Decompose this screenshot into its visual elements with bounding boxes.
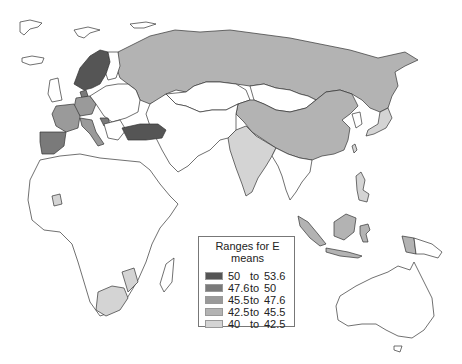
- borneo: [334, 214, 356, 240]
- legend-swatch: [205, 272, 223, 280]
- legend-title: Ranges for E means: [205, 240, 290, 264]
- legend-high: 42.5: [264, 318, 285, 330]
- japan: [366, 108, 392, 136]
- legend-item: 42.5 to 45.5: [205, 306, 290, 318]
- south-africa: [96, 286, 128, 316]
- legend-item: 50 to 53.6: [205, 270, 290, 282]
- korea: [352, 112, 362, 128]
- legend-low: 40: [228, 318, 250, 330]
- australia: [336, 262, 434, 338]
- java: [326, 248, 362, 258]
- italy: [80, 118, 104, 146]
- sumatra: [298, 216, 326, 246]
- legend-item: 45.5 to 47.6: [205, 294, 290, 306]
- madagascar: [160, 258, 174, 292]
- legend-low: 47.6: [228, 282, 250, 294]
- legend-to: to: [250, 282, 264, 294]
- legend-low: 45.5: [228, 294, 250, 306]
- svalbard: [20, 20, 42, 35]
- legend-to: to: [250, 306, 264, 318]
- spain-portugal: [40, 132, 66, 154]
- legend-high: 53.6: [264, 270, 285, 282]
- legend-swatch: [205, 320, 223, 328]
- tasmania: [394, 346, 402, 352]
- legend-low: 50: [228, 270, 250, 282]
- legend-to: to: [250, 318, 264, 330]
- legend-low: 42.5: [228, 306, 250, 318]
- legend-to: to: [250, 294, 264, 306]
- legend-high: 45.5: [264, 306, 285, 318]
- legend-swatch: [205, 296, 223, 304]
- norway-sweden: [74, 50, 110, 90]
- legend-swatch: [205, 284, 223, 292]
- sulawesi: [360, 224, 370, 242]
- philippines: [356, 172, 369, 202]
- france: [52, 104, 80, 132]
- papua-new-guinea: [414, 238, 442, 258]
- legend: Ranges for E means 50 to 53.6 47.6 to 50…: [198, 236, 295, 327]
- novaya-zemlya: [74, 27, 100, 38]
- turkey: [122, 124, 166, 140]
- legend-item: 47.6 to 50: [205, 282, 290, 294]
- iceland: [22, 56, 44, 65]
- legend-item: 40 to 42.5: [205, 318, 290, 330]
- uk: [48, 78, 62, 102]
- legend-swatch: [205, 308, 223, 316]
- taiwan: [352, 144, 357, 153]
- ghana: [52, 194, 62, 206]
- eastern-europe: [90, 84, 140, 122]
- legend-to: to: [250, 270, 264, 282]
- legend-high: 50: [264, 282, 276, 294]
- legend-high: 47.6: [264, 294, 285, 306]
- franz-josef: [130, 22, 156, 28]
